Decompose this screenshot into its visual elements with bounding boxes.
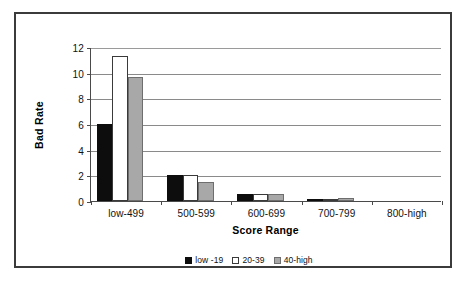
bar [338,198,354,201]
y-axis-tick [87,151,91,152]
y-axis-tick-label: 6 [78,120,84,131]
bar [97,124,113,201]
bar [237,194,253,201]
legend-label: 40-high [284,255,313,265]
x-axis-tick [442,201,443,205]
bar [183,175,199,201]
y-axis-tick-label: 12 [72,43,84,54]
bar [128,77,144,201]
x-axis-tick-label: 700-799 [318,208,355,219]
x-axis-tick [302,201,303,205]
x-axis-tick-label: 600-699 [248,208,285,219]
y-axis-tick [87,48,91,49]
legend-label: 20-39 [242,255,264,265]
legend-label: low -19 [195,255,223,265]
x-axis-tick-label: 800-high [387,208,427,219]
y-axis-tick-label: 4 [78,145,84,156]
y-axis-tick-label: 0 [78,197,84,208]
y-axis-tick [87,125,91,126]
x-axis-tick [161,201,162,205]
bar-group [167,48,214,201]
bar [323,199,339,201]
chart-legend: low -1920-3940-high [30,255,465,265]
y-axis-tick-label: 2 [78,171,84,182]
x-axis-tick [372,201,373,205]
bar-group [378,48,425,201]
legend-entry: low -19 [185,255,223,265]
bar-group [237,48,284,201]
y-axis-tick [87,176,91,177]
y-axis-tick [87,99,91,100]
x-axis-tick [231,201,232,205]
legend-swatch-icon [232,257,239,264]
bar-group [307,48,354,201]
y-axis-tick [87,74,91,75]
y-axis-tick-label: 8 [78,94,84,105]
legend-entry: 40-high [274,255,313,265]
bar [167,175,183,201]
bar [268,194,284,201]
x-axis-title: Score Range [90,224,441,236]
x-axis-tick-label: low-499 [108,208,144,219]
chart-figure: Bad Rate 024681012 low-499500-599600-699… [0,0,465,284]
y-axis-title: Bad Rate [33,101,45,149]
bar [253,194,269,201]
bar-group [97,48,144,201]
y-axis-tick-label: 10 [72,68,84,79]
figure-border: Bad Rate 024681012 low-499500-599600-699… [14,12,452,268]
legend-swatch-icon [274,257,281,264]
plot-area: 024681012 low-499500-599600-699700-79980… [90,48,441,202]
bar [112,56,128,201]
bar [307,199,323,201]
x-axis-tick [91,201,92,205]
legend-swatch-icon [185,257,192,264]
bar [198,182,214,201]
legend-entry: 20-39 [232,255,264,265]
x-axis-tick-label: 500-599 [178,208,215,219]
